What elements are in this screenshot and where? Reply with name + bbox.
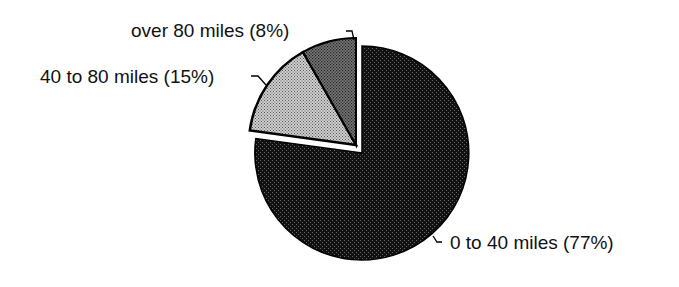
label-0-to-40-miles: 0 to 40 miles (77%) bbox=[450, 232, 614, 253]
leader-line-0-to-40 bbox=[433, 236, 442, 242]
label-40-to-80-miles: 40 to 80 miles (15%) bbox=[40, 66, 214, 87]
label-over-80-miles: over 80 miles (8%) bbox=[131, 20, 289, 41]
leader-line-40-to-80 bbox=[251, 76, 266, 85]
pie-chart: over 80 miles (8%) 40 to 80 miles (15%) … bbox=[0, 0, 679, 287]
